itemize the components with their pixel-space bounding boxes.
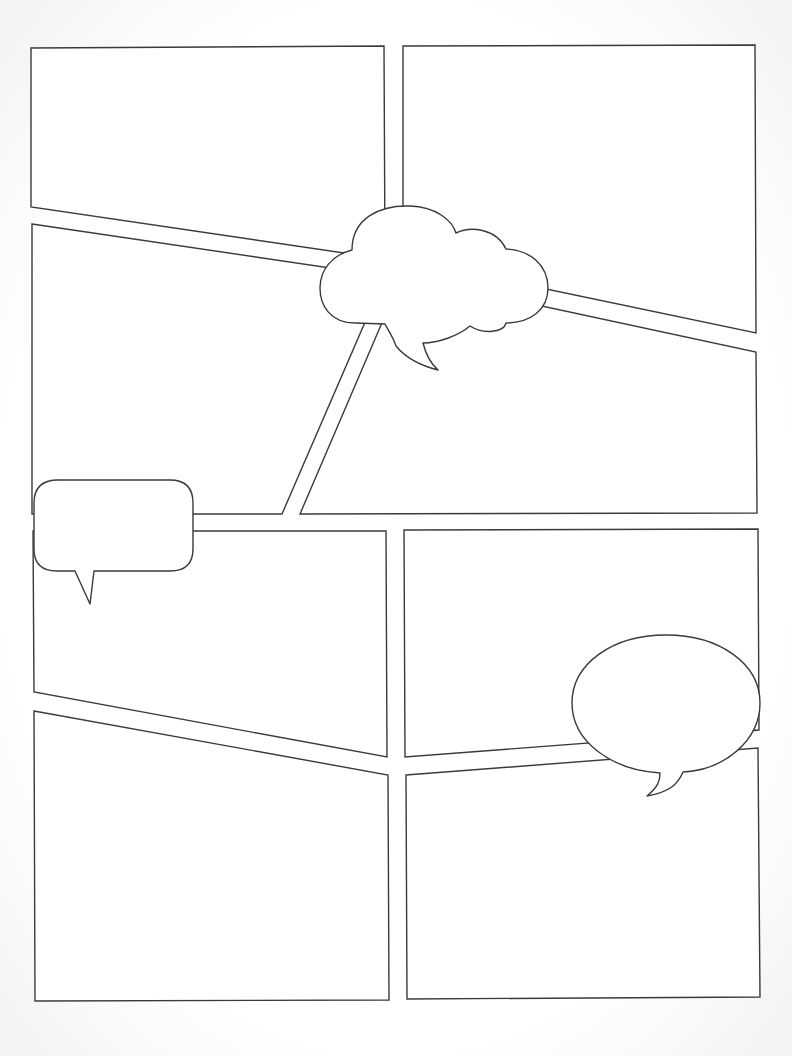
comic-page [0, 0, 792, 1056]
comic-panel-bottom-left[interactable] [34, 711, 389, 1001]
comic-panel-bottom-right[interactable] [406, 748, 760, 999]
comic-page-layout [0, 0, 792, 1056]
comic-panel-top-left[interactable] [31, 46, 385, 259]
